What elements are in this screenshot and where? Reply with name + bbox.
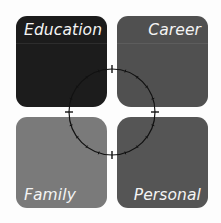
- ring-circle: [69, 69, 155, 155]
- ring-minor-tick: [125, 151, 126, 154]
- center-ring: [0, 0, 221, 223]
- ring-minor-tick: [125, 70, 126, 73]
- ring-minor-tick: [98, 151, 99, 154]
- ring-minor-tick: [70, 98, 73, 99]
- ring-minor-tick: [151, 98, 154, 99]
- ring-minor-tick: [98, 70, 99, 73]
- ring-minor-tick: [70, 125, 73, 126]
- ring-ticks: [65, 65, 159, 159]
- ring-minor-tick: [151, 125, 154, 126]
